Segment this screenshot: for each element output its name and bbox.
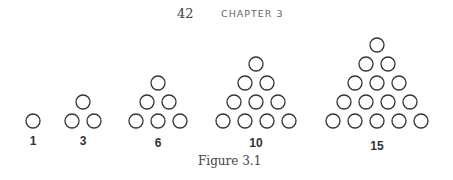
circle-icon [238,114,252,128]
circle-icon [249,57,263,71]
triangle-label: 3 [80,134,87,148]
circle-icon [359,95,373,109]
circle-icon [227,95,241,109]
circle-icon [140,95,154,109]
triangle-group-1 [26,114,40,128]
figure-caption: Figure 3.1 [198,154,261,168]
circle-icon [26,114,40,128]
triangle-label: 10 [249,136,262,150]
triangle-group-3 [65,95,101,128]
circle-icon [403,95,417,109]
circle-icon [414,114,428,128]
circle-icon [326,114,340,128]
circle-icon [76,95,90,109]
circle-icon [381,57,395,71]
circle-icon [370,76,384,90]
triangular-numbers-figure [0,0,453,180]
circle-icon [151,114,165,128]
circle-icon [238,76,252,90]
circle-icon [271,95,285,109]
circle-icon [216,114,230,128]
circle-icon [249,95,263,109]
circle-icon [173,114,187,128]
circle-icon [392,114,406,128]
triangle-label: 1 [30,134,37,148]
circle-icon [370,38,384,52]
circle-icon [260,114,274,128]
circle-icon [282,114,296,128]
circle-icon [129,114,143,128]
circle-icon [359,57,373,71]
triangle-group-15 [326,38,428,128]
triangle-group-10 [216,57,296,128]
circle-icon [87,114,101,128]
triangle-group-6 [129,76,187,128]
circle-icon [370,114,384,128]
circle-icon [381,95,395,109]
triangle-label: 15 [370,139,383,153]
circle-icon [260,76,274,90]
circle-icon [392,76,406,90]
circle-icon [348,76,362,90]
circle-icon [162,95,176,109]
circle-icon [337,95,351,109]
circle-icon [348,114,362,128]
circle-icon [65,114,79,128]
triangle-label: 6 [155,136,162,150]
circle-icon [151,76,165,90]
